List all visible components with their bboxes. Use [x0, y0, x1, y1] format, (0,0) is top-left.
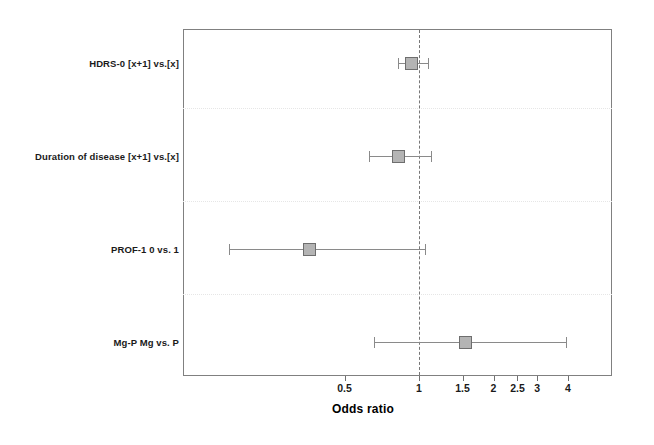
- row-separator-3: [183, 294, 612, 295]
- reference-line-or-1: [419, 30, 420, 375]
- x-tick-label-1.5: 1.5: [455, 382, 470, 394]
- ci-cap-low-1: [398, 58, 399, 69]
- forest-plot-figure: HDRS-0 [x+1] vs.[x]Duration of disease […: [0, 0, 654, 445]
- ci-cap-low-3: [229, 244, 230, 255]
- row-label-3: PROF-1 0 vs. 1: [111, 244, 179, 255]
- x-tick-2.5: [517, 376, 518, 381]
- ci-cap-low-2: [369, 151, 370, 162]
- point-estimate-marker-3: [303, 243, 316, 256]
- x-tick-label-3: 3: [534, 382, 540, 394]
- x-tick-1.5: [463, 376, 464, 381]
- row-label-1: HDRS-0 [x+1] vs.[x]: [89, 58, 179, 69]
- ci-cap-low-4: [374, 337, 375, 348]
- ci-cap-high-1: [428, 58, 429, 69]
- point-estimate-marker-1: [405, 57, 418, 70]
- point-estimate-marker-2: [392, 150, 405, 163]
- x-tick-label-2.5: 2.5: [510, 382, 525, 394]
- x-tick-0.5: [345, 376, 346, 381]
- x-axis-title-text: Odds ratio: [332, 402, 394, 416]
- plot-frame: [183, 29, 612, 376]
- x-tick-1: [419, 376, 420, 381]
- ci-cap-high-2: [431, 151, 432, 162]
- x-tick-label-0.5: 0.5: [337, 382, 352, 394]
- x-axis-title: Odds ratio: [0, 402, 654, 416]
- x-tick-label-1: 1: [416, 382, 422, 394]
- x-tick-label-2: 2: [491, 382, 497, 394]
- x-tick-2: [494, 376, 495, 381]
- row-separator-1: [183, 108, 612, 109]
- row-label-2: Duration of disease [x+1] vs.[x]: [35, 151, 179, 162]
- point-estimate-marker-4: [459, 336, 472, 349]
- x-tick-3: [537, 376, 538, 381]
- row-separator-2: [183, 201, 612, 202]
- row-label-4: Mg-P Mg vs. P: [113, 337, 179, 348]
- confidence-interval-line-3: [229, 249, 426, 250]
- ci-cap-high-4: [566, 337, 567, 348]
- ci-cap-high-3: [425, 244, 426, 255]
- x-tick-4: [568, 376, 569, 381]
- x-tick-label-4: 4: [565, 382, 571, 394]
